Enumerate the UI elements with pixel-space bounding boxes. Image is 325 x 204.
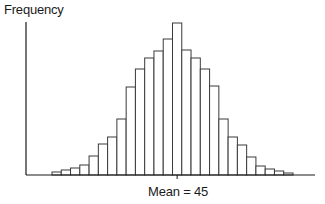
histogram-bar — [228, 137, 237, 175]
histogram-bar — [80, 165, 89, 175]
histogram-bar — [256, 166, 265, 175]
histogram-bar — [265, 169, 274, 175]
histogram-bar — [210, 86, 219, 175]
histogram-bar — [173, 23, 182, 175]
histogram-bar — [89, 156, 98, 175]
histogram-plot — [0, 0, 325, 204]
histogram-bar — [200, 69, 209, 175]
histogram-bar — [126, 87, 135, 175]
histogram-bar — [117, 119, 126, 175]
histogram-bar — [135, 69, 144, 175]
histogram-bar — [182, 50, 191, 175]
histogram-bar — [154, 51, 163, 175]
histogram-bar — [61, 170, 70, 175]
histogram-bar — [71, 168, 80, 175]
histogram-bar — [237, 145, 246, 175]
histogram-bar — [98, 144, 107, 175]
histogram-bar — [163, 39, 172, 175]
histogram-bar — [145, 58, 154, 175]
histogram-bar — [191, 58, 200, 175]
histogram-bar — [108, 137, 117, 175]
mean-annotation: Mean = 45 — [148, 184, 208, 199]
histogram-bar — [247, 157, 256, 175]
histogram-bar — [219, 119, 228, 175]
